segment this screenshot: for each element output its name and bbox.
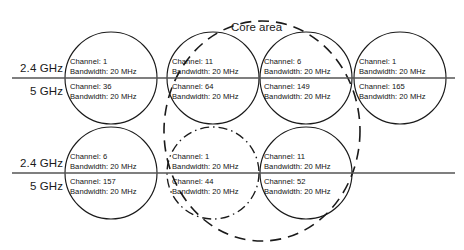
bandwidth-label: Bandwidth: 20 MHz	[359, 67, 426, 77]
channel-label: Channel: 1	[172, 152, 239, 162]
cell-top-4-band5-text: Channel: 165 Bandwidth: 20 MHz	[359, 82, 426, 101]
bandwidth-label: Bandwidth: 20 MHz	[264, 67, 331, 77]
cell-bottom-3-band5-text: Channel: 52 Bandwidth: 20 MHz	[264, 177, 331, 196]
band-label-upper-24ghz: 2.4 GHz	[0, 62, 63, 74]
channel-label: Channel: 165	[359, 82, 426, 92]
cell-top-3-band24-text: Channel: 6 Bandwidth: 20 MHz	[264, 57, 331, 76]
channel-label: Channel: 11	[264, 152, 331, 162]
cell-top-1-band24-text: Channel: 1 Bandwidth: 20 MHz	[70, 57, 137, 76]
channel-label: Channel: 149	[264, 82, 331, 92]
cell-top-2-band24-text: Channel: 11 Bandwidth: 20 MHz	[172, 57, 239, 76]
cell-bottom-2-band5-text: Channel: 44 Bandwidth: 20 MHz	[172, 177, 239, 196]
channel-label: Channel: 1	[359, 57, 426, 67]
cell-bottom-1-band5-text: Channel: 157 Bandwidth: 20 MHz	[70, 177, 137, 196]
cell-bottom-3-band24-text: Channel: 11 Bandwidth: 20 MHz	[264, 152, 331, 171]
cell-top-2-band5-text: Channel: 64 Bandwidth: 20 MHz	[172, 82, 239, 101]
band-label-lower-5ghz: 5 GHz	[0, 180, 63, 192]
cell-top-3-band5-text: Channel: 149 Bandwidth: 20 MHz	[264, 82, 331, 101]
bandwidth-label: Bandwidth: 20 MHz	[264, 162, 331, 172]
bandwidth-label: Bandwidth: 20 MHz	[70, 162, 137, 172]
bandwidth-label: Bandwidth: 20 MHz	[70, 187, 137, 197]
bandwidth-label: Bandwidth: 20 MHz	[359, 92, 426, 102]
cell-top-1-band5-text: Channel: 36 Bandwidth: 20 MHz	[70, 82, 137, 101]
diagram-canvas	[0, 0, 464, 250]
channel-label: Channel: 6	[70, 152, 137, 162]
cell-bottom-1-band24-text: Channel: 6 Bandwidth: 20 MHz	[70, 152, 137, 171]
band-label-lower-24ghz: 2.4 GHz	[0, 157, 63, 169]
core-area-label: Core area	[231, 21, 282, 33]
bandwidth-label: Bandwidth: 20 MHz	[264, 187, 331, 197]
core-area-boundary	[164, 21, 360, 241]
bandwidth-label: Bandwidth: 20 MHz	[172, 92, 239, 102]
channel-label: Channel: 64	[172, 82, 239, 92]
channel-label: Channel: 157	[70, 177, 137, 187]
bandwidth-label: Bandwidth: 20 MHz	[70, 67, 137, 77]
bandwidth-label: Bandwidth: 20 MHz	[264, 92, 331, 102]
cell-bottom-2-band24-text: Channel: 1 Bandwidth: 20 MHz	[172, 152, 239, 171]
bandwidth-label: Bandwidth: 20 MHz	[70, 92, 137, 102]
bandwidth-label: Bandwidth: 20 MHz	[172, 187, 239, 197]
bandwidth-label: Bandwidth: 20 MHz	[172, 67, 239, 77]
band-label-upper-5ghz: 5 GHz	[0, 85, 63, 97]
cell-top-4-band24-text: Channel: 1 Bandwidth: 20 MHz	[359, 57, 426, 76]
channel-label: Channel: 1	[70, 57, 137, 67]
channel-label: Channel: 11	[172, 57, 239, 67]
channel-label: Channel: 36	[70, 82, 137, 92]
bandwidth-label: Bandwidth: 20 MHz	[172, 162, 239, 172]
wifi-channel-plan-diagram: Core area 2.4 GHz 5 GHz 2.4 GHz 5 GHz Ch…	[0, 0, 464, 250]
channel-label: Channel: 52	[264, 177, 331, 187]
channel-label: Channel: 6	[264, 57, 331, 67]
channel-label: Channel: 44	[172, 177, 239, 187]
